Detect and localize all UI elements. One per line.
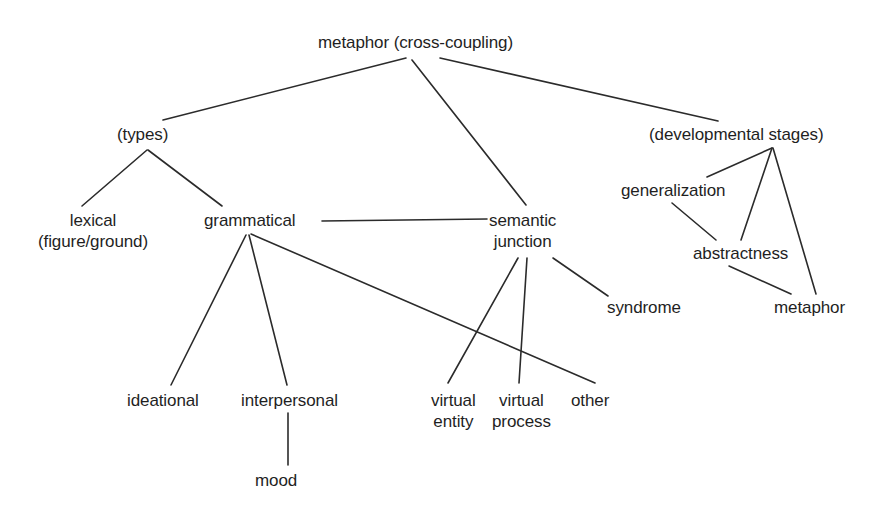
node-label: semantic bbox=[489, 211, 556, 230]
diagram-canvas: metaphor (cross-coupling)(types)(develop… bbox=[0, 0, 888, 510]
node-label: generalization bbox=[621, 181, 725, 200]
node-label-line2: (figure/ground) bbox=[38, 231, 148, 252]
node-label: grammatical bbox=[204, 211, 295, 230]
node-label: metaphor (cross-coupling) bbox=[318, 33, 513, 52]
edge-developmental_stages-to-abstractness bbox=[741, 148, 772, 240]
node-label: syndrome bbox=[607, 298, 681, 317]
edge-metaphor_root-to-semantic_junction bbox=[412, 60, 526, 205]
node-label: metaphor bbox=[774, 298, 845, 317]
node-ideational: ideational bbox=[127, 390, 199, 411]
node-label: other bbox=[571, 391, 609, 410]
edge-semantic_junction-to-virtual_process bbox=[519, 258, 527, 383]
edge-abstractness-to-metaphor_leaf bbox=[729, 266, 791, 294]
node-other: other bbox=[571, 390, 609, 411]
node-label: (developmental stages) bbox=[649, 125, 824, 144]
node-label: abstractness bbox=[693, 244, 788, 263]
node-label: interpersonal bbox=[241, 391, 338, 410]
node-label-line2: entity bbox=[431, 411, 476, 432]
node-mood: mood bbox=[255, 470, 297, 491]
edge-types-to-grammatical bbox=[148, 150, 222, 206]
node-developmental_stages: (developmental stages) bbox=[649, 124, 824, 145]
edge-developmental_stages-to-metaphor_leaf bbox=[773, 148, 816, 294]
edge-grammatical-to-other bbox=[251, 234, 595, 383]
edge-grammatical-to-interpersonal bbox=[249, 235, 287, 385]
node-virtual_entity: virtualentity bbox=[431, 390, 476, 432]
node-label: ideational bbox=[127, 391, 199, 410]
node-syndrome: syndrome bbox=[607, 297, 681, 318]
node-interpersonal: interpersonal bbox=[241, 390, 338, 411]
node-label: lexical bbox=[70, 211, 117, 230]
edge-generalization-to-abstractness bbox=[672, 203, 716, 240]
node-label: virtual bbox=[431, 391, 476, 410]
node-label: virtual bbox=[499, 391, 544, 410]
node-virtual_process: virtualprocess bbox=[492, 390, 551, 432]
node-label-line2: junction bbox=[489, 231, 556, 252]
node-semantic_junction: semanticjunction bbox=[489, 210, 556, 252]
node-lexical: lexical(figure/ground) bbox=[38, 210, 148, 252]
edge-developmental_stages-to-generalization bbox=[707, 148, 772, 177]
edge-types-to-lexical bbox=[82, 150, 147, 206]
edge-grammatical-to-ideational bbox=[171, 235, 246, 385]
edge-semantic_junction-to-syndrome bbox=[553, 258, 608, 296]
edge-semantic_junction-to-virtual_entity bbox=[448, 258, 518, 383]
node-label-line2: process bbox=[492, 411, 551, 432]
node-metaphor_root: metaphor (cross-coupling) bbox=[318, 32, 513, 53]
node-generalization: generalization bbox=[621, 180, 725, 201]
node-label: mood bbox=[255, 471, 297, 490]
node-types: (types) bbox=[117, 124, 168, 145]
node-grammatical: grammatical bbox=[204, 210, 295, 231]
node-metaphor_leaf: metaphor bbox=[774, 297, 845, 318]
edge-grammatical-to-semantic_junction bbox=[322, 219, 487, 221]
node-abstractness: abstractness bbox=[693, 243, 788, 264]
node-label: (types) bbox=[117, 125, 168, 144]
edge-metaphor_root-to-types bbox=[163, 58, 406, 120]
edge-metaphor_root-to-developmental_stages bbox=[440, 58, 718, 121]
